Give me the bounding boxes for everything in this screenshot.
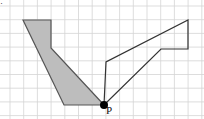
outline-shape bbox=[104, 20, 188, 105]
corner-mark: · bbox=[0, 0, 3, 8]
grid bbox=[0, 0, 204, 119]
point-label: P bbox=[106, 104, 112, 116]
diagram-canvas bbox=[0, 0, 204, 119]
